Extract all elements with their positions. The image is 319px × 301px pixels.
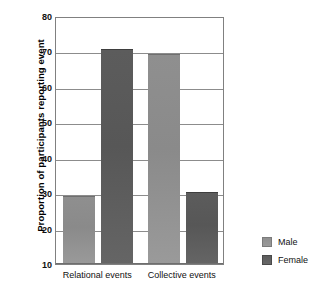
bar-series-container	[56, 18, 223, 264]
legend-item-male: Male	[262, 236, 318, 247]
x-axis-line	[56, 263, 223, 264]
y-tick-label-10: 10	[24, 260, 52, 270]
y-axis-tick-labels: 1020304050607080	[22, 17, 52, 265]
y-tick-label-50: 50	[24, 118, 52, 128]
chart-legend: Male Female	[262, 236, 318, 272]
legend-item-female: Female	[262, 254, 318, 265]
x-category-label-1: Collective events	[148, 270, 216, 280]
y-tick-label-70: 70	[24, 47, 52, 57]
bar-female-1	[186, 192, 218, 264]
bar-female-0	[101, 49, 133, 264]
female-swatch-icon	[262, 255, 272, 265]
y-tick-label-80: 80	[24, 12, 52, 22]
y-tick-label-40: 40	[24, 154, 52, 164]
x-category-label-0: Relational events	[63, 270, 132, 280]
y-tick-label-20: 20	[24, 225, 52, 235]
x-axis-category-labels: Relational eventsCollective events	[55, 270, 224, 286]
bar-male-1	[148, 54, 180, 264]
bar-chart: Proportion of participants reporting eve…	[0, 0, 319, 301]
male-swatch-icon	[262, 237, 272, 247]
plot-area	[55, 17, 224, 265]
legend-label-female: Female	[278, 255, 308, 265]
y-tick-label-60: 60	[24, 83, 52, 93]
y-tick-label-30: 30	[24, 189, 52, 199]
bar-male-0	[63, 196, 95, 264]
legend-label-male: Male	[278, 237, 298, 247]
